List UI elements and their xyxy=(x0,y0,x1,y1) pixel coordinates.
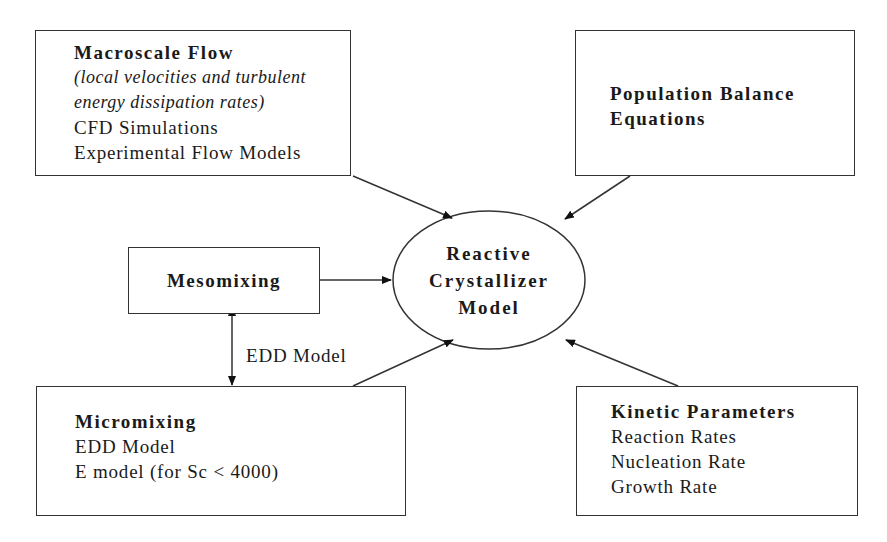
center-label-line2: Crystallizer xyxy=(393,267,585,294)
macroscale-note-line2: energy dissipation rates) xyxy=(74,90,350,115)
macroscale-note-line1: (local velocities and turbulent xyxy=(74,65,350,90)
edd-model-edge-label: EDD Model xyxy=(246,345,347,367)
arrow-micromixing-to-center xyxy=(353,340,453,386)
macroscale-item-experimental: Experimental Flow Models xyxy=(74,140,350,165)
micromixing-box: Micromixing EDD Model E model (for Sc < … xyxy=(36,386,406,516)
micromixing-item-e-model: E model (for Sc < 4000) xyxy=(75,459,405,484)
macroscale-title: Macroscale Flow xyxy=(74,40,350,65)
arrow-kinetic-to-center xyxy=(566,340,678,386)
population-title-line2: Equations xyxy=(610,106,854,131)
kinetic-item-growth: Growth Rate xyxy=(611,474,857,499)
center-label-line1: Reactive xyxy=(393,240,585,267)
center-label: Reactive Crystallizer Model xyxy=(393,240,585,321)
mesomixing-box: Mesomixing xyxy=(128,247,320,314)
arrow-macroscale-to-center xyxy=(353,176,452,218)
macroscale-flow-box: Macroscale Flow (local velocities and tu… xyxy=(35,30,351,176)
macroscale-item-cfd: CFD Simulations xyxy=(74,115,350,140)
center-label-line3: Model xyxy=(393,294,585,321)
kinetic-parameters-box: Kinetic Parameters Reaction Rates Nuclea… xyxy=(576,386,858,516)
kinetic-item-reaction: Reaction Rates xyxy=(611,424,857,449)
micromixing-item-edd: EDD Model xyxy=(75,434,405,459)
kinetic-item-nucleation: Nucleation Rate xyxy=(611,449,857,474)
mesomixing-title: Mesomixing xyxy=(167,268,281,293)
kinetic-title: Kinetic Parameters xyxy=(611,399,857,424)
population-balance-box: Population Balance Equations xyxy=(575,30,855,176)
arrow-population-to-center xyxy=(565,176,630,219)
population-title-line1: Population Balance xyxy=(610,81,854,106)
micromixing-title: Micromixing xyxy=(75,409,405,434)
